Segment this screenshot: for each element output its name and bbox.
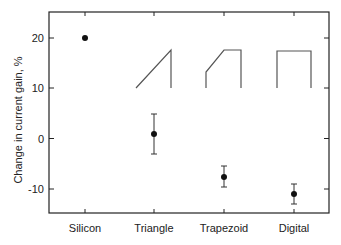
x-ticks [85, 12, 294, 213]
data-point-trapezoid [221, 174, 227, 180]
data-point-digital [291, 191, 297, 197]
triangle-waveform-icon [136, 50, 171, 88]
y-tick-label: 10 [32, 82, 44, 94]
y-axis-label: Change in current gain, % [12, 56, 24, 183]
x-tick-label-trapezoid: Trapezoid [200, 222, 249, 234]
chart: 20 10 0 -10 Silicon Triangle Trapezoid D… [0, 0, 341, 245]
data-point-silicon [82, 35, 88, 41]
x-tick-label-silicon: Silicon [69, 222, 101, 234]
y-tick-label: 0 [38, 133, 44, 145]
y-tick-label: -10 [28, 183, 44, 195]
digital-waveform-icon [277, 51, 311, 88]
plot-frame [49, 12, 329, 213]
data-point-triangle [151, 131, 157, 137]
y-ticks-left [49, 38, 54, 189]
y-tick-label: 20 [32, 32, 44, 44]
trapezoid-waveform-icon [206, 50, 241, 88]
y-ticks-right [324, 38, 329, 189]
x-tick-label-triangle: Triangle [134, 222, 173, 234]
x-tick-label-digital: Digital [279, 222, 310, 234]
